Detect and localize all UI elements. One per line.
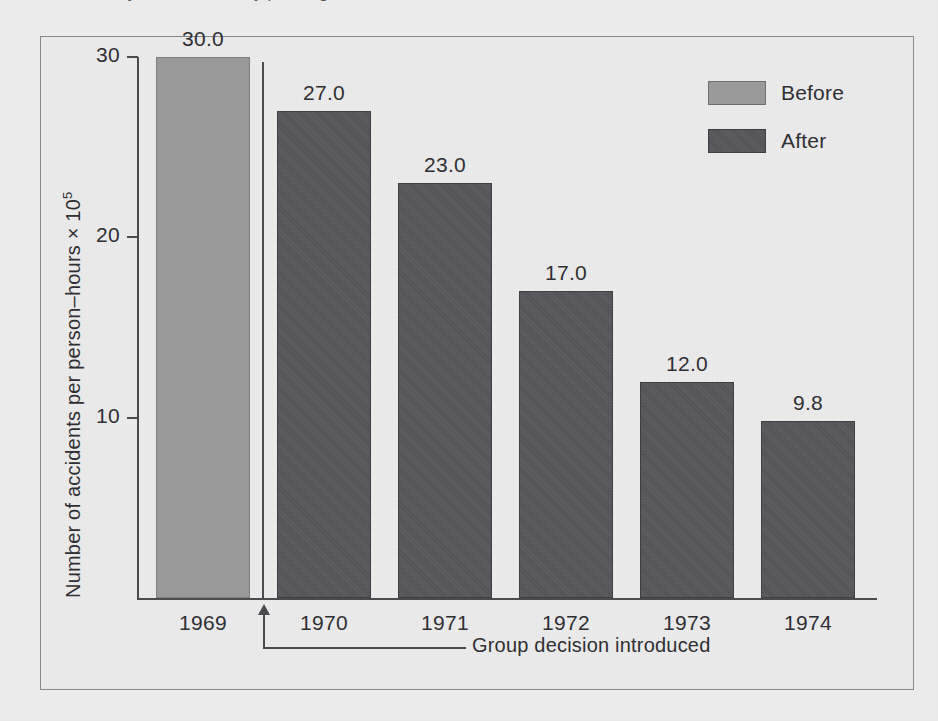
bar-value-label-1973: 12.0 [620, 352, 754, 376]
y-axis-tick [127, 236, 138, 238]
legend-swatch-after [708, 129, 766, 153]
annotation-arrow-shaft [263, 607, 265, 649]
legend-label-after: After [781, 129, 826, 153]
y-axis-title: Number of accidents per person–hours × 1… [62, 0, 85, 598]
bar-value-label-1972: 17.0 [499, 261, 633, 285]
bar-value-label-1969: 30.0 [136, 27, 270, 51]
bar-1969[interactable] [156, 57, 250, 598]
chart-plot-area: 102030 30.027.023.017.012.09.8 196919701… [0, 0, 938, 721]
before-after-divider [262, 62, 264, 598]
x-axis-label-1971: 1971 [378, 611, 512, 635]
bar-1974[interactable] [761, 421, 855, 598]
x-axis-label-1972: 1972 [499, 611, 633, 635]
x-axis-label-1974: 1974 [741, 611, 875, 635]
y-axis-tick-label: 30 [96, 43, 120, 67]
bar-value-label-1971: 23.0 [378, 153, 512, 177]
y-axis-tick [127, 56, 138, 58]
legend-item-after[interactable]: After [708, 124, 844, 158]
bar-1971[interactable] [398, 183, 492, 598]
y-axis-tick-label: 20 [96, 223, 120, 247]
y-axis-tick [127, 417, 138, 419]
y-axis-line [137, 57, 139, 599]
x-axis-line [137, 598, 877, 600]
x-axis-label-1969: 1969 [136, 611, 270, 635]
x-axis-label-1970: 1970 [257, 611, 391, 635]
bar-value-label-1970: 27.0 [257, 81, 391, 105]
legend-swatch-before [708, 81, 766, 105]
y-axis-tick-label: 10 [96, 404, 120, 428]
annotation-label: Group decision introduced [472, 634, 710, 657]
x-axis-label-1973: 1973 [620, 611, 754, 635]
legend-label-before: Before [781, 81, 844, 105]
legend-item-before[interactable]: Before [708, 76, 844, 110]
bar-value-label-1974: 9.8 [741, 391, 875, 415]
bar-1972[interactable] [519, 291, 613, 598]
bar-1970[interactable] [277, 111, 371, 598]
y-axis-title-exponent: 5 [60, 192, 75, 199]
chart-legend: BeforeAfter [708, 76, 844, 172]
bar-1973[interactable] [640, 382, 734, 598]
annotation-leader-line [263, 647, 466, 649]
